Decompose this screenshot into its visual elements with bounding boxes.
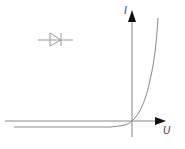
diode-icon xyxy=(38,33,73,46)
x-axis xyxy=(5,117,166,125)
iv-curve xyxy=(14,18,158,127)
diode-characteristic-diagram: I U xyxy=(0,0,185,149)
diagram-graphic xyxy=(0,0,185,149)
x-axis-label: U xyxy=(163,125,170,136)
y-axis-label: I xyxy=(124,5,127,16)
